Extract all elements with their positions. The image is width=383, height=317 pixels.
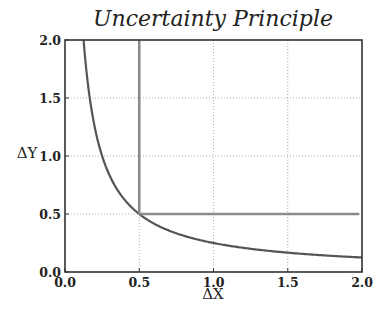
y-tick-label: 0.5 bbox=[39, 207, 61, 222]
x-axis-label: ΔX bbox=[202, 285, 224, 303]
y-tick-label: 1.5 bbox=[39, 91, 61, 106]
x-tick-label: 0.5 bbox=[128, 275, 150, 290]
y-axis-label: ΔY bbox=[17, 144, 39, 162]
data-series bbox=[84, 40, 362, 258]
y-tick-label: 2.0 bbox=[39, 33, 61, 48]
y-tick-label: 1.0 bbox=[39, 149, 61, 164]
y-tick-label: 0.0 bbox=[39, 265, 61, 280]
chart-title: Uncertainty Principle bbox=[93, 6, 333, 31]
x-tick-label: 2.0 bbox=[351, 275, 373, 290]
x-tick-label: 1.5 bbox=[277, 275, 299, 290]
grid-lines bbox=[65, 40, 362, 272]
chart: Uncertainty Principle 0.00.51.01.52.0 0.… bbox=[0, 0, 383, 317]
series-line-0 bbox=[84, 40, 362, 258]
